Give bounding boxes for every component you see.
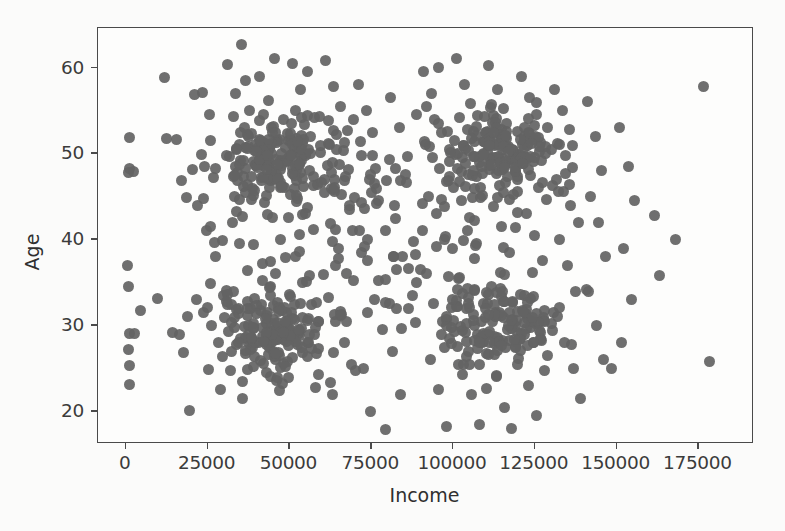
scatter-point — [355, 136, 366, 147]
scatter-point — [433, 118, 444, 129]
scatter-point — [462, 225, 473, 236]
scatter-point — [474, 419, 485, 430]
scatter-point — [591, 320, 602, 331]
scatter-point — [272, 159, 283, 170]
scatter-point — [396, 323, 407, 334]
scatter-point — [381, 175, 392, 186]
scatter-point — [477, 190, 488, 201]
x-tick-mark — [288, 443, 289, 449]
scatter-point — [204, 109, 215, 120]
scatter-point — [390, 213, 401, 224]
scatter-point — [283, 212, 294, 223]
scatter-point — [554, 302, 565, 313]
scatter-point — [254, 71, 265, 82]
scatter-point — [302, 202, 313, 213]
scatter-point — [554, 139, 565, 150]
scatter-point — [361, 105, 372, 116]
scatter-point — [498, 296, 509, 307]
scatter-point — [496, 221, 507, 232]
scatter-point — [313, 369, 324, 380]
scatter-point — [210, 163, 221, 174]
scatter-point — [344, 200, 355, 211]
scatter-point — [466, 133, 477, 144]
scatter-point — [380, 225, 391, 236]
scatter-point — [698, 81, 709, 92]
x-tick-mark — [534, 443, 535, 449]
scatter-point — [411, 109, 422, 120]
scatter-point — [159, 72, 170, 83]
scatter-point — [568, 363, 579, 374]
scatter-point — [294, 229, 305, 240]
y-tick-mark — [91, 152, 97, 153]
scatter-point — [362, 307, 373, 318]
y-tick-mark — [91, 410, 97, 411]
scatter-point — [439, 342, 450, 353]
scatter-point — [328, 347, 339, 358]
scatter-point — [233, 337, 244, 348]
scatter-point — [459, 79, 470, 90]
scatter-point — [456, 195, 467, 206]
scatter-point — [443, 271, 454, 282]
scatter-point — [365, 406, 376, 417]
scatter-point — [654, 270, 665, 281]
scatter-point — [534, 325, 545, 336]
scatter-point — [529, 230, 540, 241]
x-tick-label: 25000 — [178, 452, 235, 473]
scatter-point — [448, 182, 459, 193]
scatter-point — [325, 377, 336, 388]
scatter-point — [196, 149, 207, 160]
scatter-point — [463, 298, 474, 309]
scatter-point — [424, 141, 435, 152]
scatter-point — [308, 224, 319, 235]
scatter-point — [242, 265, 253, 276]
scatter-point — [460, 327, 471, 338]
scatter-point — [191, 294, 202, 305]
scatter-point — [403, 303, 414, 314]
y-tick-mark — [91, 67, 97, 68]
scatter-point — [215, 384, 226, 395]
scatter-point — [326, 167, 337, 178]
scatter-point — [323, 292, 334, 303]
scatter-point — [302, 66, 313, 77]
scatter-point — [205, 135, 216, 146]
scatter-point — [292, 136, 303, 147]
scatter-point — [265, 256, 276, 267]
scatter-point — [286, 118, 297, 129]
scatter-point — [366, 187, 377, 198]
scatter-point — [255, 355, 266, 366]
scatter-point — [176, 175, 187, 186]
scatter-point — [469, 253, 480, 264]
scatter-point — [401, 177, 412, 188]
scatter-point — [348, 275, 359, 286]
scatter-point — [481, 287, 492, 298]
scatter-point — [182, 311, 193, 322]
scatter-point — [557, 105, 568, 116]
scatter-point — [280, 361, 291, 372]
scatter-point — [394, 122, 405, 133]
scatter-point — [124, 132, 135, 143]
scatter-point — [262, 209, 273, 220]
scatter-point — [210, 251, 221, 262]
y-axis-title-text: Age — [21, 233, 43, 270]
scatter-point — [616, 337, 627, 348]
scatter-point — [606, 363, 617, 374]
scatter-point — [295, 84, 306, 95]
scatter-point — [510, 222, 521, 233]
scatter-point — [481, 383, 492, 394]
scatter-point — [531, 97, 542, 108]
scatter-point — [451, 53, 462, 64]
scatter-point — [227, 217, 238, 228]
scatter-point — [229, 322, 240, 333]
scatter-point — [129, 328, 140, 339]
scatter-point — [276, 181, 287, 192]
scatter-point — [273, 306, 284, 317]
scatter-point — [410, 317, 421, 328]
scatter-point — [483, 60, 494, 71]
scatter-point — [236, 39, 247, 50]
scatter-point — [369, 294, 380, 305]
scatter-point — [367, 127, 378, 138]
scatter-point — [566, 339, 577, 350]
scatter-point — [391, 264, 402, 275]
scatter-point — [564, 124, 575, 135]
scatter-point — [310, 382, 321, 393]
